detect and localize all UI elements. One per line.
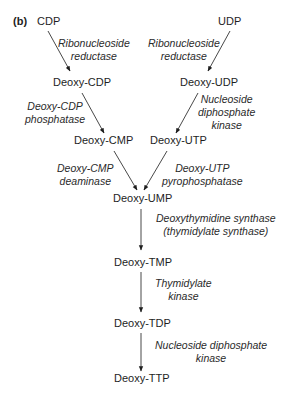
enzyme-ribonucleoside-reductase-left: Ribonucleoside reductase (58, 37, 130, 63)
enzyme-nucleoside-diphosphate-kinase-upper: Nucleoside diphosphate kinase (198, 93, 255, 132)
node-deoxy-cmp: Deoxy-CMP (74, 134, 133, 146)
enzyme-nucleoside-diphosphate-kinase-lower: Nucleoside diphosphate kinase (155, 339, 267, 365)
arrow-deoxy-cdp-to-deoxy-cmp (82, 93, 104, 133)
enzyme-thymidylate-synthase: Deoxythymidine synthase (thymidylate syn… (156, 212, 276, 238)
node-deoxy-tdp: Deoxy-TDP (114, 317, 171, 329)
enzyme-deoxy-cmp-deaminase: Deoxy-CMP deaminase (57, 162, 114, 188)
node-deoxy-utp: Deoxy-UTP (150, 134, 207, 146)
enzyme-deoxy-utp-pyrophosphatase: Deoxy-UTP pyrophosphatase (162, 162, 243, 188)
node-deoxy-cdp: Deoxy-CDP (53, 76, 111, 88)
node-deoxy-tmp: Deoxy-TMP (114, 256, 172, 268)
node-deoxy-ttp: Deoxy-TTP (114, 372, 170, 384)
enzyme-ribonucleoside-reductase-right: Ribonucleoside reductase (148, 37, 220, 63)
node-udp: UDP (218, 15, 241, 27)
node-deoxy-ump: Deoxy-UMP (113, 192, 172, 204)
panel-label: (b) (13, 15, 27, 27)
node-deoxy-udp: Deoxy-UDP (180, 76, 238, 88)
arrow-deoxy-udp-to-deoxy-utp (176, 93, 198, 133)
enzyme-thymidylate-kinase: Thymidylate kinase (155, 277, 212, 303)
enzyme-deoxy-cdp-phosphatase: Deoxy-CDP phosphatase (25, 100, 85, 126)
arrow-deoxy-cmp-to-deoxy-ump (114, 151, 137, 190)
node-cdp: CDP (37, 15, 60, 27)
